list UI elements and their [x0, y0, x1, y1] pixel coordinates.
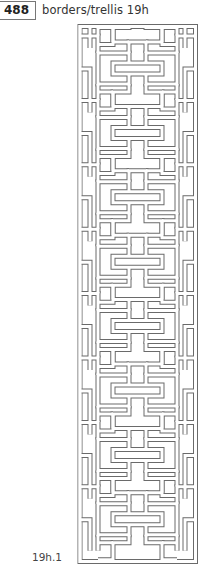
figure-caption: 19h.1 [32, 551, 62, 563]
trellis-lattice-pattern-icon [0, 0, 202, 577]
